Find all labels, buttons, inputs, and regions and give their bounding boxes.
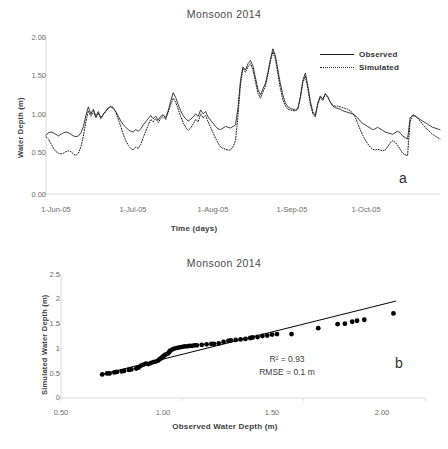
- panel-b-ytick-5: 2.5: [35, 270, 60, 279]
- panel-a-legend: Observed Simulated: [320, 48, 399, 74]
- scatter-point: [129, 367, 134, 372]
- scatter-point: [335, 322, 340, 327]
- scatter-point: [260, 334, 265, 339]
- scatter-point: [275, 332, 280, 337]
- scatter-point: [199, 342, 204, 347]
- scatter-point: [255, 335, 260, 340]
- legend-label-simulated: Simulated: [359, 63, 399, 73]
- legend-line-solid-icon: [320, 51, 354, 58]
- scatter-point: [228, 338, 233, 343]
- scatter-point: [114, 370, 119, 375]
- scatter-point: [250, 335, 255, 340]
- panel-b-letter: b: [395, 355, 403, 371]
- scatter-point: [107, 371, 112, 376]
- panel-b-scatter: Monsoon 2014 Simulated Water Depth (m) 0…: [0, 245, 448, 449]
- panel-b-r2-annotation: R² = 0.93: [232, 353, 342, 366]
- figure-container: Monsoon 2014 Water Depth (m) 0.00 0.50 1…: [0, 0, 448, 449]
- scatter-point: [221, 340, 226, 345]
- scatter-point: [194, 343, 199, 348]
- legend-line-dotted-icon: [320, 64, 354, 71]
- scatter-point: [204, 342, 209, 347]
- scatter-point: [355, 318, 360, 323]
- scatter-point: [316, 326, 321, 331]
- scatter-point: [211, 341, 216, 346]
- panel-b-plot-area: [0, 245, 448, 449]
- panel-a-x-axis-label: Time (days): [114, 224, 274, 233]
- scatter-point: [122, 369, 127, 374]
- panel-a-xtick-0: 1-Jun-05: [21, 205, 91, 214]
- legend-entry-simulated: Simulated: [320, 61, 399, 74]
- legend-entry-observed: Observed: [320, 48, 399, 61]
- panel-a-ytick-0: 0.00: [10, 190, 46, 199]
- panel-a-xtick-4: 1-Oct-05: [331, 205, 401, 214]
- panel-b-x-axis-label: Observed Water Depth (m): [130, 422, 320, 431]
- scatter-point: [289, 332, 294, 337]
- scatter-point: [350, 319, 355, 324]
- scatter-point: [391, 311, 396, 316]
- panel-a-xtick-1: 1-Jul-05: [98, 205, 168, 214]
- panel-a-timeseries: Monsoon 2014 Water Depth (m) 0.00 0.50 1…: [0, 0, 448, 245]
- panel-b-rmse-annotation: RMSE = 0.1 m: [232, 366, 342, 379]
- panel-b-ytick-2: 1: [35, 344, 60, 353]
- scatter-point: [233, 338, 238, 343]
- scatter-point: [243, 337, 248, 342]
- panel-a-xtick-2: 1-Aug-05: [178, 205, 248, 214]
- scatter-point: [343, 321, 348, 326]
- panel-b-ytick-1: 0.5: [35, 369, 60, 378]
- panel-a-ytick-1: 0.50: [10, 148, 46, 157]
- scatter-point: [270, 332, 275, 337]
- scatter-point: [362, 317, 367, 322]
- panel-a-letter: a: [399, 170, 407, 186]
- panel-a-xtick-3: 1-Sep-05: [257, 205, 327, 214]
- legend-label-observed: Observed: [359, 50, 398, 60]
- scatter-point: [238, 337, 243, 342]
- panel-a-title: Monsoon 2014: [0, 8, 448, 20]
- panel-b-ytick-4: 2: [35, 294, 60, 303]
- scatter-point: [216, 341, 221, 346]
- panel-a-ytick-4: 2.00: [10, 33, 46, 42]
- panel-b-ytick-3: 1.5: [35, 319, 60, 328]
- scatter-point: [100, 372, 105, 377]
- panel-b-xtick-0: 0.50: [41, 408, 81, 417]
- panel-b-xtick-3: 2.00: [362, 408, 402, 417]
- panel-b-title: Monsoon 2014: [0, 257, 448, 269]
- scatter-point: [265, 333, 270, 338]
- panel-a-ytick-2: 1.00: [10, 110, 46, 119]
- panel-a-ytick-3: 1.50: [10, 71, 46, 80]
- panel-b-ytick-0: 0: [35, 393, 60, 402]
- panel-b-xtick-1: 1.00: [143, 408, 183, 417]
- panel-b-xtick-2: 1.50: [252, 408, 292, 417]
